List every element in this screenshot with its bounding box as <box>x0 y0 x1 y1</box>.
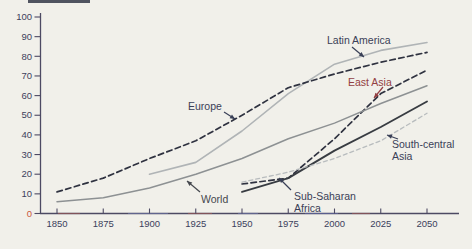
urbanization-line-chart: 1850187519001925195019752000202520500102… <box>0 0 472 249</box>
x-tick-label: 1900 <box>139 218 160 229</box>
y-tick-label: 30 <box>21 149 32 160</box>
y-tick-label: 70 <box>21 70 32 81</box>
series-label-europe: Europe <box>188 100 222 112</box>
x-tick-label: 2050 <box>416 218 437 229</box>
y-tick-label: 20 <box>21 168 32 179</box>
y-tick-label: 80 <box>21 51 32 62</box>
y-tick-label: 90 <box>21 31 32 42</box>
series-label-world: World <box>201 193 228 205</box>
y-tick-label: 0 <box>27 208 32 219</box>
y-tick-label: 60 <box>21 90 32 101</box>
y-tick-label: 50 <box>21 109 32 120</box>
series-label-sub-saharan-africa: Sub-SaharanAfrica <box>294 190 356 214</box>
x-tick-label: 1950 <box>231 218 252 229</box>
x-tick-label: 1875 <box>93 218 114 229</box>
x-tick-label: 1850 <box>46 218 67 229</box>
y-tick-label: 100 <box>16 11 32 22</box>
y-tick-label: 40 <box>21 129 32 140</box>
series-label-latin-america: Latin America <box>327 34 391 46</box>
series-label-south-central-asia: South-centralAsia <box>392 138 454 162</box>
y-tick-label: 10 <box>21 188 32 199</box>
chart-canvas: 1850187519001925195019752000202520500102… <box>0 0 472 249</box>
x-tick-label: 1975 <box>278 218 299 229</box>
page-edge-artifact <box>28 0 90 3</box>
series-label-east-asia: East Asia <box>348 76 392 88</box>
x-tick-label: 2025 <box>370 218 391 229</box>
x-tick-label: 2000 <box>324 218 345 229</box>
series-line-europe <box>57 52 427 192</box>
series-line-east-asia <box>242 70 427 184</box>
x-tick-label: 1925 <box>185 218 206 229</box>
